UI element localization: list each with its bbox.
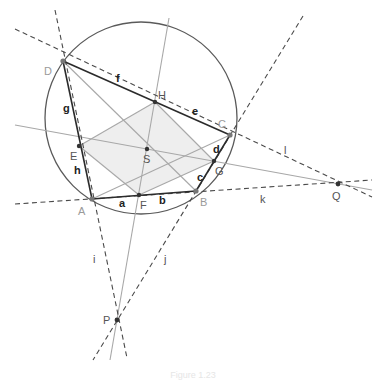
- label-B: B: [200, 196, 207, 208]
- label-g: g: [63, 102, 70, 114]
- label-h: h: [74, 164, 81, 176]
- point-P: [115, 318, 120, 323]
- figure-caption: Figure 1.23: [0, 370, 386, 380]
- construction-lines: [15, 18, 372, 360]
- label-b: b: [159, 194, 166, 206]
- label-H: H: [158, 89, 166, 101]
- line-k: [15, 180, 372, 204]
- line-PH-extended: [110, 18, 169, 360]
- point-C: [227, 132, 232, 137]
- points: [60, 58, 340, 322]
- point-G: [212, 159, 216, 163]
- point-D: [60, 58, 65, 63]
- label-E: E: [70, 150, 77, 162]
- label-P: P: [103, 314, 110, 326]
- label-F: F: [140, 199, 147, 211]
- point-S: [145, 147, 149, 151]
- geometry-diagram: A B C D E F G H S P Q a b c d e f g h i …: [0, 0, 386, 383]
- label-G: G: [215, 165, 224, 177]
- label-j: j: [163, 253, 166, 265]
- label-d: d: [213, 143, 220, 155]
- label-e: e: [192, 105, 198, 117]
- label-k: k: [260, 193, 266, 205]
- label-A: A: [78, 205, 86, 217]
- point-F: [137, 193, 141, 197]
- label-D: D: [44, 65, 52, 77]
- label-c: c: [197, 171, 203, 183]
- label-i: i: [93, 253, 95, 265]
- edge-DA: [63, 61, 92, 199]
- label-l: l: [284, 144, 286, 156]
- label-Q: Q: [332, 190, 341, 202]
- label-S: S: [143, 153, 150, 165]
- point-E: [77, 144, 81, 148]
- point-H: [153, 100, 157, 104]
- label-C: C: [218, 118, 226, 130]
- dashed-lines: [15, 10, 372, 360]
- point-A: [89, 196, 94, 201]
- label-f: f: [116, 72, 120, 84]
- label-a: a: [119, 197, 126, 209]
- point-B: [193, 188, 198, 193]
- point-Q: [336, 182, 341, 187]
